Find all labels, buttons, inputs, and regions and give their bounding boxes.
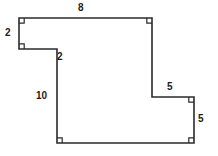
geometry-figure: 8221055 [0, 0, 218, 156]
label-left-long: 10 [36, 91, 47, 101]
label-step-right: 5 [167, 82, 173, 92]
label-step-top: 2 [57, 52, 63, 62]
label-top: 8 [78, 3, 84, 13]
label-left-upper: 2 [5, 28, 11, 38]
label-right-lower: 5 [198, 114, 204, 124]
polygon-svg [0, 0, 218, 156]
